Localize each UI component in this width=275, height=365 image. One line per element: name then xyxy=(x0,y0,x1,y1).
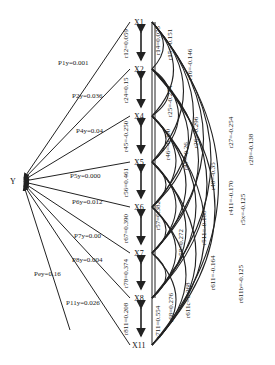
svg-text:r26=-0.296: r26=-0.296 xyxy=(192,116,200,148)
node-x1: X1 xyxy=(134,18,144,27)
node-x7: X7 xyxy=(134,249,144,258)
p11y-label: P11y=0.026 xyxy=(66,299,100,307)
path-lines xyxy=(24,22,130,345)
svg-text:r611=-0.164: r611=-0.164 xyxy=(209,255,217,290)
svg-text:r57=0.382: r57=0.382 xyxy=(154,200,162,230)
p6y-label: P6y=0.012 xyxy=(72,198,103,206)
path-diagram: Y X1 X2 X4 X5 X6 X7 X8 X11 xyxy=(0,0,275,365)
svg-text:r16=-0.146: r16=-0.146 xyxy=(186,48,194,80)
p1y-label: P1y=0.001 xyxy=(58,59,89,67)
pey-label: Pey=0.16 xyxy=(34,270,61,278)
node-x6: X6 xyxy=(134,203,144,212)
svg-text:r28=-0.138: r28=-0.138 xyxy=(247,133,255,165)
svg-text:r47=-0.26: r47=-0.26 xyxy=(182,142,190,170)
p2y-label: P2y=0.036 xyxy=(72,92,103,100)
node-x2: X2 xyxy=(134,65,144,74)
node-x5: X5 xyxy=(134,158,144,167)
path-coefficient-labels: P1y=0.001 P2y=0.036 P4y=0.04 P5y=0.000 P… xyxy=(34,59,104,307)
svg-text:r14=0.075: r14=0.075 xyxy=(154,25,162,55)
node-y: Y xyxy=(10,177,16,186)
svg-text:r611b=-0.125: r611b=-0.125 xyxy=(237,264,245,303)
p7y-label: P7y=0.00 xyxy=(74,232,102,240)
svg-text:r611c=0.268: r611c=0.268 xyxy=(184,282,192,318)
svg-text:r711=0.554: r711=0.554 xyxy=(154,305,162,338)
p5y-label: P5y=0.000 xyxy=(70,172,101,180)
node-x11: X11 xyxy=(132,341,145,350)
x-nodes: X1 X2 X4 X5 X6 X7 X8 X11 xyxy=(132,18,145,350)
svg-text:r48=-0.35: r48=-0.35 xyxy=(209,162,217,190)
svg-text:r27=-0.254: r27=-0.254 xyxy=(227,116,235,148)
svg-text:r56=0.461: r56=0.461 xyxy=(122,167,130,197)
svg-text:r5x=-0.125: r5x=-0.125 xyxy=(239,193,247,225)
svg-text:r15=-0.151: r15=-0.151 xyxy=(166,28,174,60)
p4y-label: P4y=0.04 xyxy=(76,127,104,135)
svg-text:r46=-0.300: r46=-0.300 xyxy=(164,128,172,160)
svg-text:r511=-0.188: r511=-0.188 xyxy=(200,210,208,245)
svg-text:r24=0.15: r24=0.15 xyxy=(122,77,130,103)
svg-text:r58=0.272: r58=0.272 xyxy=(177,228,185,258)
svg-text:r45=-0.250: r45=-0.250 xyxy=(122,120,130,152)
svg-text:r78=0.374: r78=0.374 xyxy=(122,258,130,288)
svg-text:r67=0.390: r67=0.390 xyxy=(122,213,130,243)
adjacent-correlation-labels: r12=0.059 r24=0.15 r45=-0.250 r56=0.461 … xyxy=(122,28,130,335)
svg-text:r25=-0.254: r25=-0.254 xyxy=(166,85,174,117)
svg-text:r12=0.059: r12=0.059 xyxy=(122,28,130,58)
node-x8: X8 xyxy=(134,294,144,303)
svg-text:r811=0.208: r811=0.208 xyxy=(122,302,130,335)
node-x4: X4 xyxy=(134,112,144,121)
svg-text:r68=0.276: r68=0.276 xyxy=(167,292,175,322)
p8y-label: P8y=0.004 xyxy=(72,256,103,264)
svg-text:r411=-0.170: r411=-0.170 xyxy=(227,180,235,215)
